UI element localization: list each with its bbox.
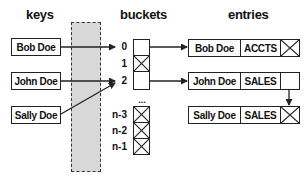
bucket-index-2: 2 [103, 75, 127, 86]
null-x-icon [134, 107, 149, 122]
entry-name: John Doe [189, 73, 241, 89]
null-x-icon [134, 139, 149, 154]
connector-arrows [0, 0, 307, 184]
entry-john-doe: John Doe SALES [188, 72, 300, 90]
key-bob-doe: Bob Doe [11, 38, 61, 56]
entry-bob-doe: Bob Doe ACCTS [188, 39, 300, 57]
bucket-0 [133, 39, 150, 56]
entries-header: entries [228, 7, 269, 22]
bucket-index-n-1: n-1 [103, 141, 127, 152]
null-x-icon [281, 107, 299, 123]
null-x-icon [134, 56, 149, 71]
entry-dept: ACCTS [241, 40, 281, 56]
entry-next-null [281, 40, 299, 56]
bucket-1 [133, 55, 150, 72]
bucket-n-3 [133, 106, 150, 123]
bucket-n-1 [133, 138, 150, 155]
bucket-2 [133, 71, 150, 90]
entry-dept: SALES [241, 73, 281, 89]
null-x-icon [134, 123, 149, 138]
bucket-index-0: 0 [103, 41, 127, 52]
keys-header: keys [26, 7, 54, 22]
bucket-n-2 [133, 122, 150, 139]
bucket-index-n-3: n-3 [103, 109, 127, 120]
key-sally-doe: Sally Doe [11, 106, 61, 124]
hash-function-column [71, 22, 101, 172]
entry-next-null [281, 107, 299, 123]
entry-next-pointer [281, 73, 299, 89]
null-x-icon [281, 40, 299, 56]
entry-name: Bob Doe [189, 40, 241, 56]
buckets-header: buckets [120, 7, 167, 22]
key-john-doe: John Doe [11, 72, 61, 90]
bucket-index-1: 1 [103, 58, 127, 69]
entry-dept: SALES [241, 107, 281, 123]
entry-name: Sally Doe [189, 107, 241, 123]
ellipsis: ... [134, 95, 150, 105]
bucket-index-n-2: n-2 [103, 125, 127, 136]
entry-sally-doe: Sally Doe SALES [188, 106, 300, 124]
